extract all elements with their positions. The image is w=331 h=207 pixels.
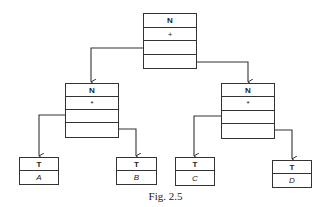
root-node: N + (143, 13, 197, 69)
right-node-operator: * (222, 97, 274, 111)
left-node-tag: N (66, 84, 118, 97)
leaf-node-d: T D (272, 160, 312, 188)
leaf-c-value: C (176, 171, 214, 185)
leaf-a-value: A (20, 171, 58, 184)
right-node-right-pointer (222, 124, 274, 138)
root-node-operator: + (144, 28, 196, 41)
leaf-node-b: T B (116, 157, 157, 185)
leaf-b-tag: T (117, 158, 156, 171)
right-node-left-pointer (222, 111, 274, 124)
left-node-operator: * (66, 97, 118, 110)
root-node-right-pointer (144, 55, 196, 68)
figure-caption: Fig. 2.5 (0, 190, 331, 202)
leaf-a-tag: T (20, 158, 58, 171)
leaf-c-tag: T (176, 158, 214, 171)
root-node-left-pointer (144, 41, 196, 55)
root-node-tag: N (144, 14, 196, 28)
leaf-d-value: D (273, 174, 311, 187)
left-node-left-pointer (66, 110, 118, 123)
leaf-d-tag: T (273, 161, 311, 174)
left-node-right-pointer (66, 123, 118, 137)
leaf-node-c: T C (175, 157, 215, 186)
right-node-tag: N (222, 84, 274, 97)
right-node: N * (221, 83, 275, 139)
leaf-node-a: T A (19, 157, 59, 185)
left-node: N * (65, 83, 119, 138)
leaf-b-value: B (117, 171, 156, 184)
